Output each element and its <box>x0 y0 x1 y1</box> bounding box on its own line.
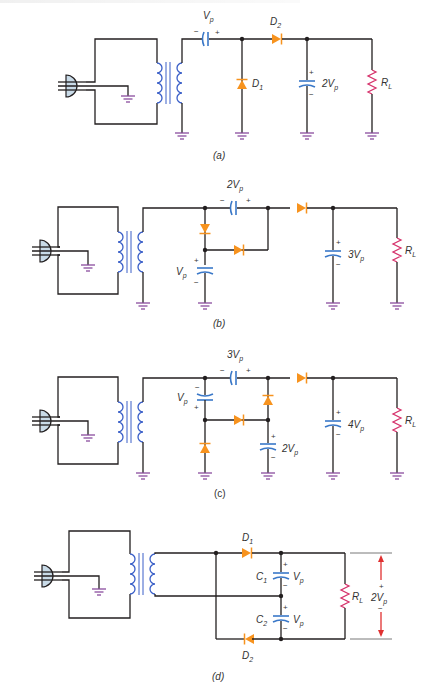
resistor-rl-icon <box>393 238 401 262</box>
diode-icon <box>234 415 244 426</box>
caption-a: (a) <box>213 150 225 161</box>
ground-icon <box>326 303 340 309</box>
svg-text:+: + <box>194 403 199 412</box>
ground-icon <box>81 435 95 441</box>
ground-icon <box>175 133 189 139</box>
svg-text:−: − <box>283 624 288 633</box>
panel-c-voltage-quadrupler: − + 3Vp − + Vp + − 2Vp + − <box>32 349 416 499</box>
ground-icon <box>198 303 212 309</box>
diode-d1-icon <box>237 80 248 90</box>
svg-text:C2: C2 <box>256 614 267 627</box>
transformer-icon <box>118 231 143 273</box>
svg-text:−: − <box>194 278 199 287</box>
svg-text:+: + <box>215 28 220 37</box>
ground-icon <box>92 589 106 595</box>
svg-text:+: + <box>194 256 199 265</box>
caption-c: (c) <box>214 488 226 499</box>
caption-d: (d) <box>212 671 224 682</box>
svg-text:C1: C1 <box>256 571 267 584</box>
svg-text:−: − <box>336 430 341 439</box>
capacitor-icon <box>231 371 237 385</box>
svg-text:2Vp: 2Vp <box>281 443 298 457</box>
ground-icon <box>365 133 379 139</box>
svg-text:RL: RL <box>381 77 392 90</box>
svg-text:−: − <box>336 260 341 269</box>
resistor-rl-icon <box>341 584 349 608</box>
caption-b: (b) <box>213 318 225 329</box>
svg-text:−: − <box>220 366 225 375</box>
ground-icon <box>198 473 212 479</box>
ground-icon <box>326 473 340 479</box>
diode-d2-icon <box>272 34 282 45</box>
diode-icon <box>200 224 211 234</box>
svg-text:−: − <box>220 196 225 205</box>
transformer-icon <box>118 401 143 443</box>
capacitor-icon <box>231 201 237 215</box>
svg-text:D1: D1 <box>252 78 263 91</box>
svg-text:−: − <box>271 453 276 462</box>
svg-text:Vp: Vp <box>293 571 304 585</box>
svg-text:2Vp: 2Vp <box>321 78 338 92</box>
svg-text:+: + <box>271 432 276 441</box>
ground-icon <box>390 473 404 479</box>
transformer-icon <box>130 553 155 595</box>
svg-text:2Vp: 2Vp <box>226 179 243 193</box>
diode-icon <box>234 245 244 256</box>
svg-text:+: + <box>309 68 314 77</box>
svg-text:Vp: Vp <box>177 392 188 406</box>
svg-text:−: − <box>195 383 200 392</box>
svg-text:+: + <box>283 603 288 612</box>
diode-icon <box>200 444 211 454</box>
panel-b-voltage-tripler: − + 2Vp + − Vp + − 3Vp RL (b) <box>32 179 416 329</box>
diode-icon <box>263 396 274 406</box>
svg-text:Vp: Vp <box>293 614 304 628</box>
svg-text:−: − <box>283 581 288 590</box>
svg-text:+: + <box>336 238 341 247</box>
svg-text:D2: D2 <box>270 16 281 29</box>
svg-text:3Vp: 3Vp <box>227 349 243 363</box>
svg-text:D1: D1 <box>242 532 253 545</box>
diode-icon <box>297 373 307 384</box>
diode-d1-icon <box>242 548 252 559</box>
multiplier-circuits-figure: − + Vp D1 D2 + − 2Vp RL (a) <box>0 0 425 690</box>
ground-icon <box>261 473 275 479</box>
svg-text:−: − <box>309 90 314 99</box>
svg-text:RL: RL <box>405 245 416 258</box>
svg-text:3Vp: 3Vp <box>348 249 364 263</box>
transformer-icon <box>157 62 182 104</box>
svg-text:Vp: Vp <box>176 266 187 280</box>
svg-text:−: − <box>194 27 199 36</box>
ground-icon <box>235 133 249 139</box>
ground-icon <box>390 303 404 309</box>
svg-text:+: + <box>379 582 384 591</box>
svg-text:RL: RL <box>405 415 416 428</box>
ground-icon <box>121 96 135 102</box>
svg-text:+: + <box>246 366 251 375</box>
svg-text:+: + <box>283 560 288 569</box>
resistor-rl-icon <box>368 70 376 94</box>
panel-d-full-wave-doubler: D1 D2 + − + − C1 C2 Vp Vp RL <box>34 531 392 682</box>
capacitor-icon <box>203 32 209 46</box>
svg-text:RL: RL <box>352 591 363 604</box>
resistor-rl-icon <box>393 408 401 432</box>
svg-text:Vp: Vp <box>203 10 214 24</box>
svg-text:D2: D2 <box>242 650 253 663</box>
ground-icon <box>136 303 150 309</box>
svg-text:4Vp: 4Vp <box>348 419 364 433</box>
svg-text:−: − <box>378 604 383 613</box>
panel-a-voltage-doubler: − + Vp D1 D2 + − 2Vp RL (a) <box>58 10 392 161</box>
ground-icon <box>81 265 95 271</box>
svg-text:+: + <box>336 408 341 417</box>
diode-icon <box>297 203 307 214</box>
ground-icon <box>300 133 314 139</box>
svg-text:+: + <box>246 196 251 205</box>
ground-icon <box>136 473 150 479</box>
